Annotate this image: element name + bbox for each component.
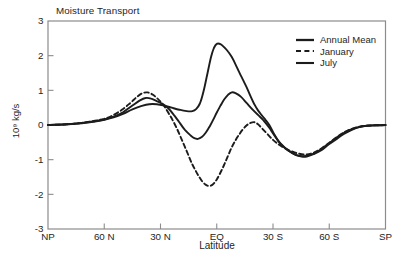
y-axis-label: 10⁹ kg/s (10, 91, 24, 151)
legend-label-july: July (320, 57, 337, 68)
y-tick-label-0: 0 (38, 119, 44, 130)
x-tick-label-60-n: 60 N (94, 231, 115, 242)
x-tick-label-np: NP (41, 231, 55, 242)
solid-line-icon (296, 37, 314, 43)
x-tick-label-30-s: 30 S (263, 231, 284, 242)
x-tick-label-sp: SP (379, 231, 393, 242)
legend-row-july: July (296, 57, 376, 69)
x-tick-label-30-n: 30 N (150, 231, 171, 242)
y-tick-label-1: 1 (38, 85, 43, 96)
curve-annual-mean (48, 92, 386, 156)
solid-line-icon (296, 60, 314, 66)
legend-label-annual-mean: Annual Mean (320, 34, 376, 45)
dashed-line-icon (296, 48, 314, 54)
legend-label-january: January (320, 46, 354, 57)
y-tick-label--1: -1 (35, 154, 44, 165)
y-tick-label-3: 3 (38, 15, 44, 26)
moisture-transport-figure: 3210-1-2-3NP60 N30 NEQ30 S60 SSP Moistur… (0, 0, 406, 264)
y-tick-label-2: 2 (38, 50, 43, 61)
legend-row-annual-mean: Annual Mean (296, 34, 376, 46)
x-axis-label: Latitude (177, 240, 257, 251)
chart-title: Moisture Transport (56, 5, 139, 16)
legend-row-january: January (296, 46, 376, 58)
y-tick-label--2: -2 (35, 189, 44, 200)
legend: Annual Mean January July (296, 34, 376, 69)
x-tick-label-60-s: 60 S (319, 231, 340, 242)
